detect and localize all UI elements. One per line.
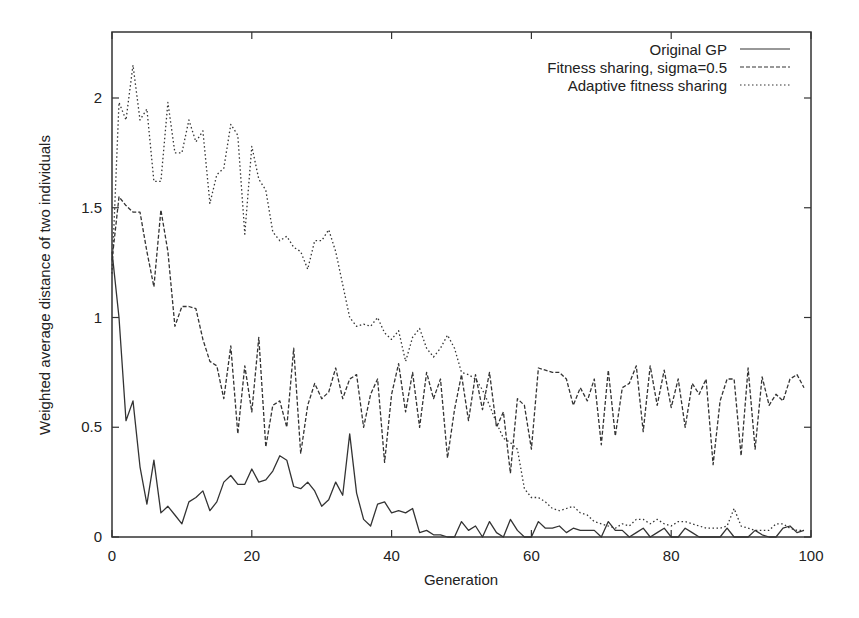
x-axis-title: Generation xyxy=(424,571,498,588)
legend-label-fitness-sharing: Fitness sharing, sigma=0.5 xyxy=(547,59,727,76)
series-dashed-line xyxy=(112,197,804,474)
legend-label-original-gp: Original GP xyxy=(649,41,727,58)
x-tick-label: 60 xyxy=(523,547,540,564)
line-chart: 02040608010000.511.52 Generation Weighte… xyxy=(0,0,859,618)
x-tick-label: 40 xyxy=(383,547,400,564)
x-tick-label: 100 xyxy=(798,547,823,564)
y-tick-label: 1 xyxy=(94,309,102,326)
y-axis-title: Weighted average distance of two individ… xyxy=(36,135,53,435)
series-layer xyxy=(112,65,804,537)
series-dotted-line xyxy=(112,65,804,530)
plot-border xyxy=(112,32,811,537)
y-tick-label: 0 xyxy=(94,528,102,545)
y-tick-label: 2 xyxy=(94,89,102,106)
x-tick-label: 0 xyxy=(108,547,116,564)
y-tick-label: 1.5 xyxy=(81,199,102,216)
x-tick-label: 20 xyxy=(243,547,260,564)
legend-label-adaptive-fitness-sharing: Adaptive fitness sharing xyxy=(568,77,727,94)
plot-frame xyxy=(112,32,811,537)
axis-ticks: 02040608010000.511.52 xyxy=(81,32,823,564)
y-tick-label: 0.5 xyxy=(81,418,102,435)
x-tick-label: 80 xyxy=(663,547,680,564)
legend: Original GP Fitness sharing, sigma=0.5 A… xyxy=(547,41,790,94)
